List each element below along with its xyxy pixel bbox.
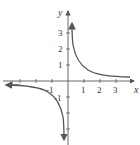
y-axis-label: y (57, 7, 63, 18)
y-tick-label-3: 3 (58, 28, 63, 38)
x-tick-label-1: 1 (81, 85, 86, 95)
y-tick-label-1: 1 (58, 60, 63, 70)
x-axis-label: x (133, 84, 139, 95)
x-tick-label-3: 3 (113, 85, 118, 95)
y-tick-label-2: 2 (58, 44, 63, 54)
curve-positive-branch (72, 23, 130, 77)
x-tick-label-2: 2 (97, 85, 102, 95)
graph: 1 2 3 -1 3 2 1 -1 x y (0, 0, 140, 145)
